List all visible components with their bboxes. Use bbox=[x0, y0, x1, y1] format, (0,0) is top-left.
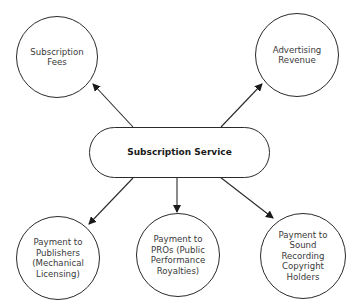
arrow-to-publishers bbox=[89, 178, 133, 224]
advertising-revenue-label: Advertising Revenue bbox=[273, 45, 322, 66]
subscription-service-label: Subscription Service bbox=[127, 147, 232, 158]
subscription-fees-node: Subscription Fees bbox=[16, 16, 98, 98]
sound-recording-payment-node: Payment to Sound Recording Copyright Hol… bbox=[260, 213, 346, 299]
arrow-to-advertising-revenue bbox=[221, 84, 262, 127]
subscription-fees-label: Subscription Fees bbox=[30, 47, 83, 68]
advertising-revenue-node: Advertising Revenue bbox=[255, 13, 339, 97]
sound-recording-payment-label: Payment to Sound Recording Copyright Hol… bbox=[279, 230, 328, 283]
arrow-to-sound-recording bbox=[220, 177, 273, 218]
publishers-payment-label: Payment to Publishers (Mechanical Licens… bbox=[32, 237, 84, 279]
pros-payment-label: Payment to PROs (Public Performance Roya… bbox=[151, 234, 205, 276]
subscription-service-node: Subscription Service bbox=[89, 127, 270, 178]
pros-payment-node: Payment to PROs (Public Performance Roya… bbox=[136, 213, 220, 297]
publishers-payment-node: Payment to Publishers (Mechanical Licens… bbox=[16, 216, 100, 300]
arrow-to-subscription-fees bbox=[93, 84, 133, 127]
